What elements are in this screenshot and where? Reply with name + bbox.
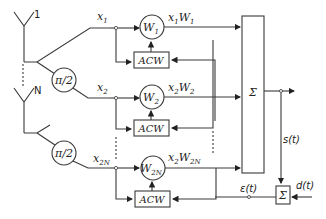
- branch-1: x1 W1 x1W1 ACW: [97, 10, 240, 121]
- antenna-1-feed-phase: [37, 62, 55, 74]
- phase-shifter-1-label: π/2: [54, 74, 73, 87]
- output-junction: [280, 90, 283, 93]
- error-summer-label: Σ: [278, 189, 287, 202]
- error-feedback-2n: [173, 168, 216, 199]
- adaptive-array-diagram: 1 N π/2 π/2 x1 W1 x1W1 ACW x2: [0, 0, 326, 219]
- antenna-n-feed-phase: [37, 133, 55, 145]
- output-signal-label: s(t): [283, 134, 300, 145]
- desired-signal-label: d(t): [296, 180, 314, 191]
- output-x2w2n: x2W2N: [168, 151, 201, 166]
- error-junction: [248, 196, 251, 199]
- main-summer-label: Σ: [248, 86, 257, 99]
- junction-node: [114, 26, 117, 29]
- input-x2n: x2N: [93, 152, 111, 167]
- antenna-1-feed-x1: [24, 28, 110, 62]
- junction-node: [114, 96, 117, 99]
- error-signal-label: ε(t): [240, 183, 257, 194]
- acw-label: ACW: [137, 123, 164, 134]
- acw-label: ACW: [138, 194, 165, 205]
- output-x2w2: x2W2: [168, 81, 195, 96]
- input-x2: x2: [97, 81, 108, 96]
- antenna-icon: [14, 12, 34, 62]
- antenna-icon: [14, 88, 34, 133]
- antenna-1-label: 1: [34, 9, 40, 20]
- antenna-n-stub: [24, 125, 50, 133]
- input-x1: x1: [97, 10, 108, 25]
- antenna-n: N: [14, 85, 41, 133]
- branch-2n: x2N W2N x2W2N ACW: [93, 151, 240, 207]
- phase-shifter-n-label: π/2: [54, 147, 73, 160]
- output-x1w1: x1W1: [168, 11, 194, 26]
- antenna-n-label: N: [34, 85, 41, 96]
- antenna-1: 1: [14, 9, 40, 62]
- junction-node: [114, 166, 117, 169]
- acw-label: ACW: [137, 55, 164, 66]
